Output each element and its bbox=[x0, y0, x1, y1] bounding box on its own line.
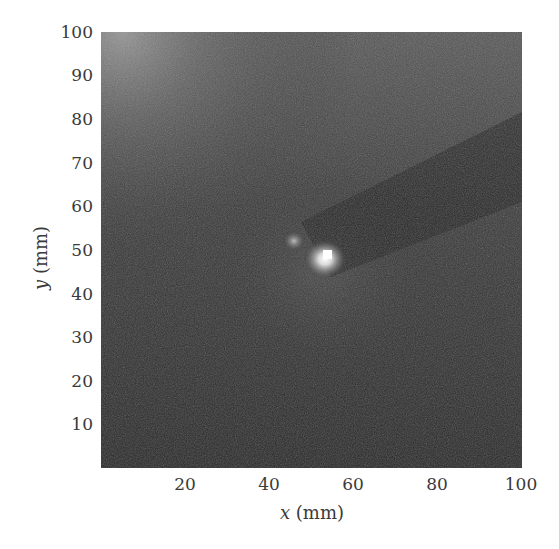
y-tick-label: 30 bbox=[33, 329, 93, 346]
y-tick-label: 60 bbox=[33, 198, 93, 215]
y-axis-label: y (mm) bbox=[30, 226, 51, 290]
y-tick-label: 70 bbox=[33, 155, 93, 172]
heatmap-plot-area bbox=[101, 32, 522, 468]
x-tick-label: 100 bbox=[491, 476, 551, 493]
y-tick-label: 90 bbox=[33, 67, 93, 84]
heatmap-image bbox=[101, 32, 522, 468]
x-tick-label: 60 bbox=[323, 476, 383, 493]
y-tick-label: 100 bbox=[33, 24, 93, 41]
y-tick-label: 80 bbox=[33, 111, 93, 128]
x-tick-label: 40 bbox=[239, 476, 299, 493]
x-tick-label: 20 bbox=[155, 476, 215, 493]
y-tick-label: 10 bbox=[33, 416, 93, 433]
x-axis-label: x (mm) bbox=[262, 502, 362, 523]
heatmap-figure: 100 90 80 70 60 50 40 30 20 10 20 40 60 … bbox=[0, 0, 559, 549]
x-tick-label: 80 bbox=[407, 476, 467, 493]
y-tick-label: 20 bbox=[33, 373, 93, 390]
